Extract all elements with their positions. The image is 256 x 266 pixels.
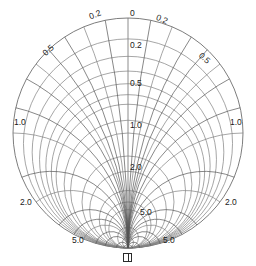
- axis-label-5-0: 5.0: [140, 208, 152, 217]
- axis-label-0-5: 0.5: [130, 79, 142, 88]
- infinity-glyph-icon: [123, 253, 132, 262]
- right-label-1-0: 1.0: [230, 118, 242, 127]
- axis-label-1-0: 1.0: [130, 121, 142, 130]
- right-label-2-0: 2.0: [225, 198, 237, 207]
- origin-infinity-marker: [123, 253, 132, 264]
- smith-chart-container: 00.20.51.02.05.00.20.51.02.05.00.20.51.0…: [0, 0, 256, 266]
- axis-label-0-2: 0.2: [130, 41, 142, 50]
- left-label-5-0: 5.0: [72, 236, 84, 245]
- axis-label-2-0: 2.0: [130, 163, 142, 172]
- left-label-1-0: 1.0: [14, 118, 26, 127]
- smith-chart-grid: [0, 0, 256, 266]
- left-label-2-0: 2.0: [20, 198, 32, 207]
- axis-label-0: 0: [130, 9, 135, 18]
- right-label-5-0: 5.0: [163, 236, 175, 245]
